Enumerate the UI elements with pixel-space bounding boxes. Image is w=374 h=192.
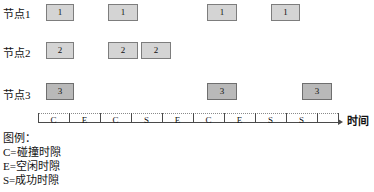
timeline-arrow-icon (338, 119, 343, 125)
slot-label-5: E (162, 116, 193, 125)
slot-label-8: S (255, 116, 286, 125)
packet-box-node2-3: 2 (141, 42, 171, 59)
packet-box-node2-1: 2 (46, 42, 74, 59)
packet-box-node2-2: 2 (108, 42, 138, 59)
packet-box-node1-3: 1 (207, 4, 237, 21)
packet-box-node1-1: 1 (46, 4, 74, 21)
legend-title: 图例： (3, 133, 36, 144)
slot-label-4: S (131, 116, 162, 125)
slot-label-3: C (100, 116, 131, 125)
row-label-node2: 节点2 (3, 48, 31, 59)
legend-item-2: E=空闲时隙 (3, 161, 60, 172)
packet-box-node3-3: 3 (302, 83, 332, 100)
packet-box-node1-4: 1 (271, 4, 300, 21)
row-label-node3: 节点3 (3, 90, 31, 101)
packet-box-node1-2: 1 (108, 4, 138, 21)
timing-diagram: 节点11111节点2222节点3333CECSECESS时间图例：C=碰撞时隙E… (0, 0, 374, 192)
slot-label-6: C (193, 116, 224, 125)
timeline-axis-label: 时间 (347, 116, 369, 127)
packet-box-node3-1: 3 (46, 83, 74, 100)
row-label-node1: 节点1 (3, 9, 31, 20)
slot-label-7: E (224, 116, 255, 125)
legend-item-1: C=碰撞时隙 (3, 147, 61, 158)
slot-label-1: C (38, 116, 69, 125)
slot-label-9: S (286, 116, 317, 125)
legend-item-3: S=成功时隙 (3, 175, 59, 186)
timeline-tick-10 (317, 113, 318, 123)
slot-label-2: E (69, 116, 100, 125)
packet-box-node3-2: 3 (207, 83, 237, 100)
